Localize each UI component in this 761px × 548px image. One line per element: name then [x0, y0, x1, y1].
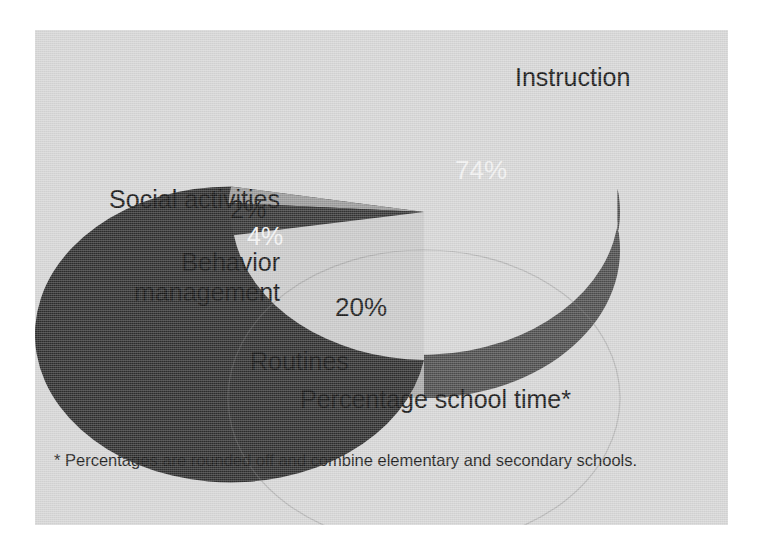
slice-value-instruction: 74%: [455, 155, 507, 186]
slice-label-instruction: Instruction: [515, 63, 630, 93]
side-wall-instruction-front: [424, 189, 620, 398]
slice-label-routines: Routines: [250, 347, 349, 377]
slice-value-routines: 20%: [335, 292, 387, 323]
pie-top-faces: [35, 186, 424, 482]
chart-panel: 74% 20% 2% 4% Instruction Social activit…: [35, 30, 728, 525]
slice-label-social-activities: Social activities: [90, 185, 280, 215]
figure-canvas: 74% 20% 2% 4% Instruction Social activit…: [0, 0, 761, 548]
slice-value-behavior-management: 4%: [247, 222, 283, 251]
chart-title: Percentage school time*: [300, 385, 571, 414]
chart-footnote: * Percentages are rounded off and combin…: [54, 445, 674, 476]
slice-label-behavior-management: Behavior management: [70, 248, 280, 307]
